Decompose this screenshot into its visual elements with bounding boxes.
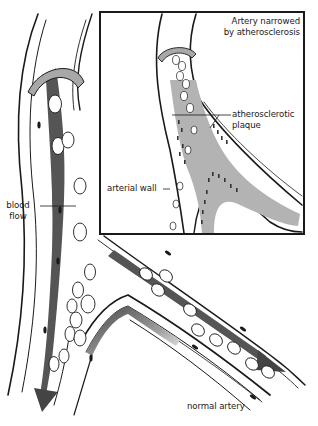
inset-title: Artery narrowed by atherosclerosis [188, 16, 300, 38]
arterial-wall-label: arterial wall [107, 183, 157, 194]
plaque-label-line1: atherosclerotic [232, 109, 294, 120]
inset-title-line1: Artery narrowed [188, 16, 300, 27]
blood-stream-main [40, 68, 65, 395]
blood-flow-label-line1: blood [0, 200, 36, 211]
normal-artery-label: normal artery [187, 401, 245, 412]
blood-flow-label-line2: flow [0, 211, 36, 222]
blood-flow-label: blood flow [0, 200, 36, 222]
inset-title-line2: by atherosclerosis [188, 27, 300, 38]
artery-illustration [0, 0, 318, 426]
blood-flow-arrowhead-main [34, 388, 58, 412]
plaque-label-line2: plaque [232, 120, 294, 131]
plaque-label: atherosclerotic plaque [232, 109, 294, 131]
